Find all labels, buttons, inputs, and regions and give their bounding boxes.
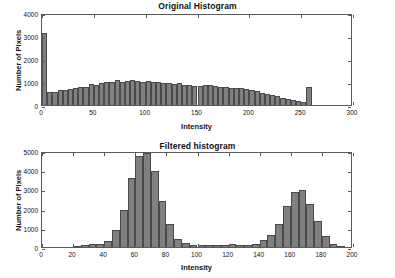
histogram-bar <box>267 235 275 247</box>
x-tick-label: 100 <box>191 251 202 258</box>
x-axis-tick <box>301 15 302 18</box>
y-axis-tick <box>42 153 45 154</box>
bar-series-filtered <box>42 153 351 247</box>
y-axis-tick <box>348 211 351 212</box>
y-axis-tick <box>42 191 45 192</box>
histogram-bar <box>205 245 213 247</box>
x-axis-tick <box>94 102 95 105</box>
x-tick-label: 80 <box>162 251 169 258</box>
x-tick-label: 60 <box>131 251 138 258</box>
x-tick-label: 50 <box>89 109 96 116</box>
histogram-bar <box>143 153 151 247</box>
y-axis-tick <box>348 61 351 62</box>
x-tick-label: 180 <box>315 251 326 258</box>
y-axis-tick <box>42 15 45 16</box>
x-axis-tick <box>301 102 302 105</box>
y-tick-label: 4000 <box>0 11 38 18</box>
y-axis-tick <box>42 107 45 108</box>
x-tick-label: 200 <box>243 109 254 116</box>
y-axis-tick <box>348 84 351 85</box>
histogram-bar <box>89 244 97 247</box>
histogram-bar <box>112 230 120 247</box>
y-tick-label: 1000 <box>0 80 38 87</box>
x-tick-label: 100 <box>139 109 150 116</box>
chart-title-original: Original Histogram <box>0 1 395 11</box>
x-tick-label: 40 <box>100 251 107 258</box>
histogram-bar <box>322 236 330 247</box>
x-axis-tick <box>353 153 354 156</box>
y-axis-tick <box>42 61 45 62</box>
histogram-bar <box>198 245 206 247</box>
x-axis-tick <box>94 15 95 18</box>
histogram-bar <box>236 245 244 247</box>
x-axis-tick <box>322 153 323 156</box>
histogram-bar <box>174 239 182 247</box>
x-axis-tick <box>198 153 199 156</box>
y-axis-tick <box>348 249 351 250</box>
y-tick-label: 0 <box>0 103 38 110</box>
histogram-bar <box>128 178 136 247</box>
y-axis-tick <box>42 38 45 39</box>
x-axis-tick <box>104 244 105 247</box>
x-axis-tick <box>198 102 199 105</box>
x-axis-tick <box>353 102 354 105</box>
x-axis-tick <box>135 153 136 156</box>
x-axis-tick <box>135 244 136 247</box>
x-tick-label: 20 <box>68 251 75 258</box>
figure-canvas: Original Histogram Number of Pixels 0501… <box>0 0 395 278</box>
histogram-bar <box>229 244 237 247</box>
y-axis-tick <box>42 211 45 212</box>
x-tick-label: 300 <box>347 109 358 116</box>
chart-title-filtered: Filtered histogram <box>0 141 395 151</box>
x-axis-tick <box>166 153 167 156</box>
x-axis-tick <box>146 15 147 18</box>
y-tick-label: 4000 <box>0 168 38 175</box>
y-axis-tick <box>348 15 351 16</box>
y-tick-label: 3000 <box>0 187 38 194</box>
x-axis-tick <box>146 102 147 105</box>
chart-panel-filtered: Filtered histogram Number of Pixels 0204… <box>0 139 395 278</box>
histogram-bar <box>330 244 338 247</box>
x-axis-title-filtered: Intensity <box>41 263 352 272</box>
y-axis-tick <box>348 38 351 39</box>
x-axis-tick <box>260 244 261 247</box>
x-tick-label: 140 <box>253 251 264 258</box>
x-axis-tick <box>42 102 43 105</box>
histogram-bar <box>299 190 307 247</box>
x-tick-label: 250 <box>295 109 306 116</box>
histogram-bar <box>96 244 104 247</box>
histogram-bar <box>104 241 112 247</box>
x-axis-tick <box>260 153 261 156</box>
plot-area-original <box>41 14 352 106</box>
x-axis-tick <box>198 15 199 18</box>
y-axis-tick <box>42 249 45 250</box>
y-tick-label: 5000 <box>0 149 38 156</box>
x-axis-title-original: Intensity <box>41 122 352 131</box>
histogram-bar <box>314 221 322 247</box>
histogram-bar <box>135 156 143 247</box>
x-tick-label: 120 <box>222 251 233 258</box>
y-axis-tick <box>348 191 351 192</box>
histogram-bar <box>306 204 314 247</box>
chart-panel-original: Original Histogram Number of Pixels 0501… <box>0 0 395 139</box>
x-tick-label: 0 <box>39 109 43 116</box>
x-tick-label: 0 <box>39 251 43 258</box>
x-axis-tick <box>353 244 354 247</box>
x-axis-tick <box>353 15 354 18</box>
y-tick-label: 3000 <box>0 34 38 41</box>
x-axis-tick <box>291 244 292 247</box>
x-axis-tick <box>73 153 74 156</box>
x-tick-label: 150 <box>191 109 202 116</box>
histogram-bar <box>244 245 252 247</box>
x-tick-label: 200 <box>347 251 358 258</box>
histogram-bar <box>190 245 198 247</box>
histogram-bar <box>306 87 311 105</box>
x-axis-tick <box>42 244 43 247</box>
x-axis-tick <box>229 153 230 156</box>
y-tick-label: 2000 <box>0 57 38 64</box>
x-axis-tick <box>104 153 105 156</box>
histogram-bar <box>213 245 221 247</box>
histogram-bar <box>166 224 174 247</box>
y-axis-tick <box>42 84 45 85</box>
y-tick-label: 2000 <box>0 206 38 213</box>
